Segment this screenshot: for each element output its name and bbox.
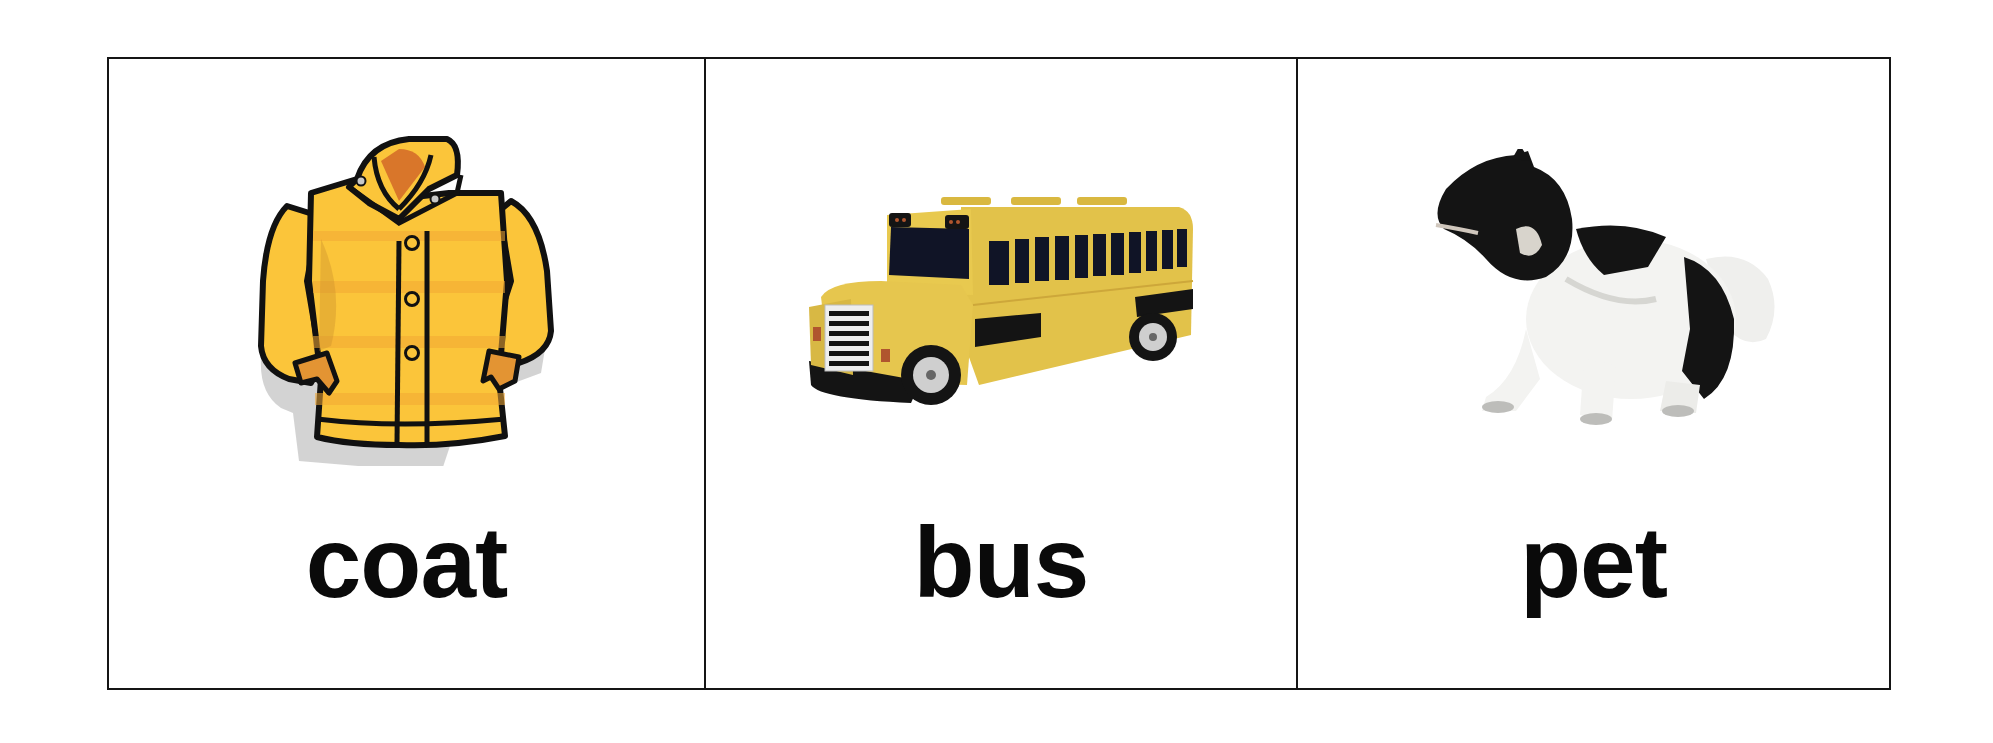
word-label-pet: pet	[1298, 507, 1889, 617]
word-label-coat: coat	[109, 507, 704, 617]
word-card-bus: bus	[704, 59, 1296, 688]
word-card-strip: coat	[107, 57, 1891, 690]
dog-image-icon	[1416, 149, 1786, 439]
bus-image-icon	[801, 185, 1201, 410]
word-card-pet: pet	[1296, 59, 1889, 688]
word-label-bus: bus	[706, 507, 1296, 617]
coat-image-icon	[249, 131, 569, 466]
word-card-coat: coat	[109, 59, 704, 688]
